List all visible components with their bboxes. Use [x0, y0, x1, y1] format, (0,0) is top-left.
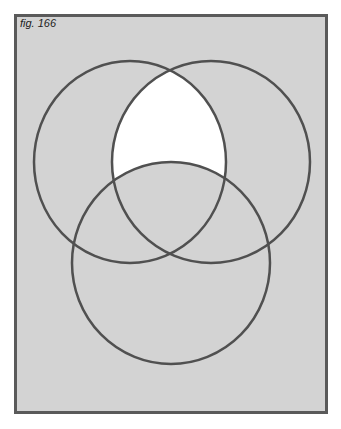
venn-diagram: [0, 0, 341, 429]
